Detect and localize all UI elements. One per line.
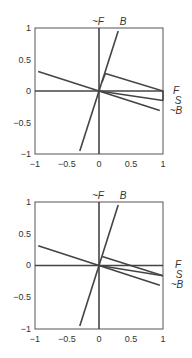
ytick: 0: [26, 260, 31, 270]
series-lines: [35, 28, 163, 154]
label-B: B: [120, 190, 127, 201]
label-notB: ~B: [171, 279, 184, 290]
ytick: −1: [21, 149, 31, 159]
chart-panel-bottom: 1 0.5 0 −0.5 −1 −1 −0.5 0 0.5 1 ~F B F S…: [0, 180, 192, 358]
ytick: 0: [26, 86, 31, 96]
line-labels: ~F B F S ~B: [92, 16, 183, 116]
series-lines: [35, 202, 163, 329]
ytick: 1: [26, 23, 31, 33]
label-B: B: [120, 16, 127, 27]
chart-top: 1 0.5 0 −0.5 −1 −1 −0.5 0 0.5 1 ~F B F S…: [0, 0, 192, 179]
line-labels: ~F B F S ~B: [92, 190, 184, 290]
xtick: −1: [30, 334, 40, 344]
label-notF: ~F: [92, 16, 105, 27]
xtick: −0.5: [58, 159, 76, 169]
line-S: [99, 91, 163, 101]
ytick: 0.5: [18, 229, 31, 239]
line-S: [99, 266, 163, 276]
xtick: 1: [160, 159, 165, 169]
label-notB: ~B: [170, 105, 183, 116]
ytick: −0.5: [13, 118, 31, 128]
xtick: 0.5: [125, 159, 138, 169]
ytick: −0.5: [13, 292, 31, 302]
xtick: −1: [30, 159, 40, 169]
label-notF: ~F: [92, 190, 105, 201]
ytick: 1: [26, 197, 31, 207]
chart-bottom: 1 0.5 0 −0.5 −1 −1 −0.5 0 0.5 1 ~F B F S…: [0, 180, 192, 358]
tick-labels: 1 0.5 0 −0.5 −1 −1 −0.5 0 0.5 1: [13, 197, 165, 344]
ytick: 0.5: [18, 55, 31, 65]
xtick: 0: [96, 334, 101, 344]
xtick: 1: [160, 334, 165, 344]
xtick: 0: [96, 159, 101, 169]
ytick: −1: [21, 324, 31, 334]
xtick: −0.5: [58, 334, 76, 344]
xtick: 0.5: [125, 334, 138, 344]
chart-panel-top: 1 0.5 0 −0.5 −1 −1 −0.5 0 0.5 1 ~F B F S…: [0, 0, 192, 179]
tick-labels: 1 0.5 0 −0.5 −1 −1 −0.5 0 0.5 1: [13, 23, 165, 169]
